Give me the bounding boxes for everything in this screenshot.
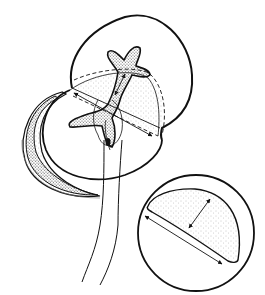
stalk-lines (82, 138, 122, 285)
diagram-canvas (0, 0, 265, 295)
diagram-svg (0, 0, 265, 295)
inset-circle (138, 175, 254, 291)
crescent-outline (22, 92, 100, 198)
